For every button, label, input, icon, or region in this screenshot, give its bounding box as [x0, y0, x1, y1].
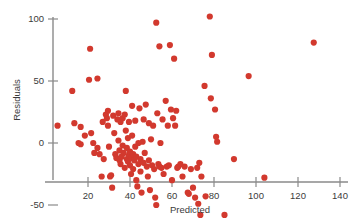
data-point — [129, 132, 135, 138]
data-point — [82, 132, 88, 138]
data-point — [156, 43, 162, 49]
x-axis-title: Predicted — [170, 204, 210, 215]
y-tick-label: 50 — [33, 75, 44, 86]
data-point — [105, 123, 111, 129]
data-point — [157, 140, 163, 146]
data-point — [196, 160, 202, 166]
data-point — [179, 173, 185, 179]
data-point — [138, 190, 144, 196]
data-point — [198, 173, 204, 179]
data-point — [153, 202, 159, 208]
data-point — [188, 166, 194, 172]
data-point — [101, 156, 107, 162]
data-point — [261, 175, 267, 181]
data-point — [87, 46, 93, 52]
data-point — [163, 98, 169, 104]
data-point — [134, 183, 140, 189]
data-point — [86, 77, 92, 83]
x-tick-label: 40 — [125, 190, 136, 201]
data-point — [150, 123, 156, 129]
data-point — [129, 103, 135, 109]
data-point — [172, 123, 178, 129]
y-tick-label: -50 — [30, 199, 44, 210]
scatter-plot-canvas: 20406080100120140 -50050100 Predicted Re… — [0, 0, 355, 223]
data-point — [159, 116, 165, 122]
data-point — [165, 123, 171, 129]
data-point — [108, 172, 114, 178]
data-point — [221, 212, 227, 218]
data-point — [94, 75, 100, 81]
data-point — [246, 73, 252, 79]
data-point — [142, 150, 148, 156]
data-point — [78, 124, 84, 130]
y-tick-label: 100 — [28, 13, 44, 24]
x-tick-label: 20 — [83, 190, 94, 201]
data-point — [154, 110, 160, 116]
data-point — [207, 13, 213, 19]
data-point — [144, 163, 150, 169]
data-point — [186, 191, 192, 197]
data-point — [173, 108, 179, 114]
residual-scatter-plot-figure: 20406080100120140 -50050100 Predicted Re… — [0, 0, 355, 223]
data-point — [161, 171, 167, 177]
data-point — [169, 177, 175, 183]
data-point — [115, 137, 121, 143]
x-tick-label: 100 — [248, 190, 264, 201]
data-point — [208, 95, 214, 101]
data-point — [78, 141, 84, 147]
data-point — [214, 139, 220, 145]
data-point — [122, 111, 128, 117]
data-point — [152, 194, 158, 200]
data-point — [69, 88, 75, 94]
data-point — [166, 162, 172, 168]
data-point — [147, 187, 153, 193]
data-point — [231, 156, 237, 162]
data-point — [141, 116, 147, 122]
data-point — [203, 193, 209, 199]
data-point — [90, 140, 96, 146]
data-point — [136, 105, 142, 111]
data-point — [132, 118, 138, 124]
x-axis-ticks: 20406080100120140 — [83, 177, 348, 201]
x-tick-label: 60 — [167, 190, 178, 201]
data-point — [145, 173, 151, 179]
data-point — [190, 185, 196, 191]
data-point — [167, 42, 173, 48]
data-point — [143, 101, 149, 107]
data-point — [126, 119, 132, 125]
data-point — [209, 52, 215, 58]
data-point — [168, 106, 174, 112]
data-point — [106, 144, 112, 150]
data-point — [137, 168, 143, 174]
data-point — [170, 115, 176, 121]
data-point — [99, 173, 105, 179]
data-points-group — [54, 13, 316, 218]
data-point — [105, 108, 111, 114]
data-point — [148, 136, 154, 142]
data-point — [158, 165, 164, 171]
data-point — [311, 39, 317, 45]
data-point — [133, 177, 139, 183]
y-tick-label: 0 — [39, 137, 44, 148]
data-point — [104, 115, 110, 121]
data-point — [123, 88, 129, 94]
data-point — [140, 139, 146, 145]
data-point — [212, 106, 218, 112]
data-point — [192, 194, 198, 200]
x-tick-label: 120 — [290, 190, 306, 201]
data-point — [171, 56, 177, 62]
data-point — [201, 83, 207, 89]
y-axis-title: Residuals — [11, 79, 22, 121]
data-point — [153, 20, 159, 26]
x-tick-label: 140 — [332, 190, 348, 201]
data-point — [54, 123, 60, 129]
axes-group — [45, 17, 348, 182]
data-point — [96, 151, 102, 157]
data-point — [123, 128, 129, 134]
x-tick-label: 80 — [209, 190, 220, 201]
data-point — [111, 130, 117, 136]
data-point — [115, 110, 121, 116]
data-point — [94, 145, 100, 151]
data-point — [182, 163, 188, 169]
data-point — [88, 130, 94, 136]
